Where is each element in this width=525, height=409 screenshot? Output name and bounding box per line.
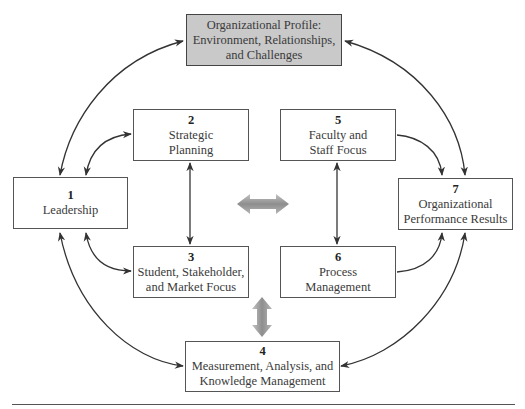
box-performance-results: 7 Organizational Performance Results	[398, 178, 513, 230]
box-label: Leadership	[43, 203, 99, 218]
box-label: Process Management	[305, 265, 370, 295]
box-student-stakeholder-market: 3 Student, Stakeholder, and Market Focus	[133, 246, 249, 298]
box-number: 5	[335, 113, 341, 128]
box-label: Measurement, Analysis, and Knowledge Man…	[192, 359, 334, 389]
box-label: Strategic Planning	[169, 128, 213, 158]
arrow-leadership-planning	[86, 134, 131, 175]
box-number: 2	[188, 113, 194, 128]
baldrige-framework-diagram: Organizational Profile: Environment, Rel…	[0, 0, 525, 409]
profile-label: Organizational Profile: Environment, Rel…	[193, 18, 336, 63]
box-label: Organizational Performance Results	[404, 197, 508, 227]
arrow-leadership-student	[86, 233, 131, 271]
box-strategic-planning: 2 Strategic Planning	[133, 109, 249, 161]
box-number: 3	[188, 250, 194, 265]
wide-arrow-horizontal	[237, 194, 289, 214]
wide-arrow-vertical	[252, 297, 272, 337]
box-number: 1	[67, 188, 73, 203]
arrow-faculty-results	[397, 135, 442, 175]
bottom-rule	[12, 404, 515, 405]
box-process-management: 6 Process Management	[280, 246, 396, 298]
box-number: 7	[452, 182, 458, 197]
box-number: 6	[335, 250, 341, 265]
box-organizational-profile: Organizational Profile: Environment, Rel…	[186, 14, 342, 66]
box-number: 4	[259, 344, 265, 359]
box-label: Faculty and Staff Focus	[309, 128, 368, 158]
box-leadership: 1 Leadership	[13, 177, 128, 229]
box-faculty-staff: 5 Faculty and Staff Focus	[280, 109, 396, 161]
arrow-process-results	[397, 233, 442, 272]
box-measurement-analysis: 4 Measurement, Analysis, and Knowledge M…	[185, 341, 340, 392]
box-label: Student, Stakeholder, and Market Focus	[138, 265, 245, 295]
